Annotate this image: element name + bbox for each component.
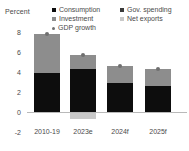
bar-segment-consumption bbox=[145, 86, 171, 112]
chart-figure: Percent Consumption Gov. spending Invest… bbox=[0, 0, 189, 151]
x-axis-tick: 2024f bbox=[111, 127, 129, 136]
y-axis-tick: -2 bbox=[15, 129, 21, 136]
bar-segment-investment bbox=[34, 34, 60, 73]
bar-segment-investment bbox=[70, 55, 96, 69]
gdp-growth-marker bbox=[118, 64, 122, 68]
y-axis-title: Percent bbox=[5, 8, 30, 15]
y-axis-labels: 86420-2 bbox=[0, 30, 24, 132]
y-axis-tick: 8 bbox=[17, 29, 21, 36]
y-axis-tick: 6 bbox=[17, 49, 21, 56]
bar-segment-investment bbox=[107, 66, 133, 83]
gdp-growth-marker bbox=[156, 67, 160, 71]
bar-segment-consumption bbox=[34, 73, 60, 112]
gdp-growth-marker bbox=[81, 53, 85, 57]
bar-segment-investment bbox=[145, 69, 171, 86]
bar-segment-consumption bbox=[70, 69, 96, 112]
y-axis-tick: 0 bbox=[17, 109, 21, 116]
bar-segment-consumption bbox=[107, 83, 133, 112]
y-axis-tick: 4 bbox=[17, 69, 21, 76]
x-axis-tick: 2010-19 bbox=[34, 127, 60, 136]
x-axis-tick: 2025f bbox=[149, 127, 167, 136]
gdp-growth-marker bbox=[45, 32, 49, 36]
x-axis-labels: 2010-192023e2024f2025f bbox=[25, 127, 189, 141]
bar-segment-net-exports bbox=[70, 113, 96, 119]
x-axis-tick: 2023e bbox=[73, 127, 92, 136]
y-axis-tick: 2 bbox=[17, 89, 21, 96]
